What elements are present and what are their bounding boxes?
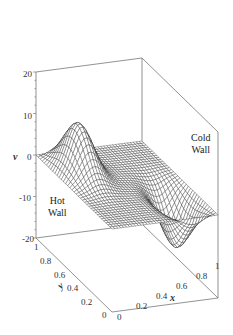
hot-wall-line1: Hot xyxy=(48,195,67,207)
surface-plot xyxy=(0,0,233,335)
cold-wall-line1: Cold xyxy=(191,132,210,144)
y-tick-0.2: 0.2 xyxy=(81,297,92,307)
x-tick-0.6: 0.6 xyxy=(176,281,187,291)
z-tick-20: 20 xyxy=(23,69,32,79)
axis-ticks xyxy=(33,72,36,238)
z-tick-0: 0 xyxy=(27,152,32,162)
z-tick-minus-20: -20 xyxy=(22,234,34,244)
cold-wall-annotation: Cold Wall xyxy=(191,132,210,156)
y-tick-1: 1 xyxy=(34,242,39,252)
x-tick-0.8: 0.8 xyxy=(196,271,207,281)
y-tick-0.6: 0.6 xyxy=(54,270,65,280)
x-axis-label: x xyxy=(170,292,175,303)
x-tick-0: 0 xyxy=(117,312,122,322)
hot-wall-annotation: Hot Wall xyxy=(48,195,67,219)
y-tick-0: 0 xyxy=(102,310,107,320)
z-axis-label: v xyxy=(13,151,17,162)
z-tick-10: 10 xyxy=(23,111,32,121)
x-tick-1: 1 xyxy=(215,261,220,271)
y-tick-0.4: 0.4 xyxy=(67,283,78,293)
x-tick-0.4: 0.4 xyxy=(156,291,167,301)
y-tick-0.8: 0.8 xyxy=(40,256,51,266)
x-tick-0.2: 0.2 xyxy=(136,301,147,311)
hot-wall-line2: Wall xyxy=(48,207,67,219)
z-tick-minus-10: -10 xyxy=(19,193,31,203)
cold-wall-line2: Wall xyxy=(191,144,210,156)
